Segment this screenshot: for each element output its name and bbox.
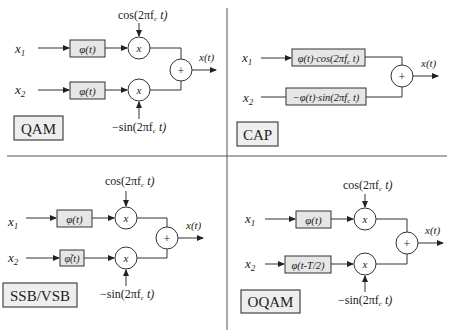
carrier-sin-label: −sin(2πfc t) <box>338 293 392 308</box>
input-x1-label: x1 <box>244 211 255 228</box>
input-x1-label: x1 <box>7 214 18 231</box>
carrier-cos-label: cos(2πfc t) <box>343 178 393 193</box>
wire-bottom-sum <box>137 249 167 258</box>
wire-top-sum <box>137 218 167 227</box>
wire-bottom-sum <box>366 87 402 97</box>
carrier-cos-label: cos(2πfc t) <box>118 8 168 23</box>
input-x2-label: x2 <box>242 90 254 107</box>
panel-title: SSB/VSB <box>10 288 70 304</box>
carrier-cos-label: cos(2πfc t) <box>105 174 155 189</box>
input-x1-label: x1 <box>241 50 252 67</box>
carrier-sin-label: −sin(2πfc t) <box>112 120 166 135</box>
wire-top-sum <box>376 219 407 232</box>
output-label: x(t) <box>198 51 215 64</box>
wire-bottom-sum <box>376 254 407 264</box>
input-x2-label: x2 <box>14 82 26 99</box>
output-label: x(t) <box>420 57 437 70</box>
multiplier-top-symbol: x <box>362 213 368 225</box>
carrier-sin-label: −sin(2πfc t) <box>100 287 154 302</box>
wire-top-sum <box>365 57 402 65</box>
filter-top-label: φ(t) <box>305 214 322 227</box>
filter-top-label: φ(t) <box>66 213 83 226</box>
multiplier-bottom-symbol: x <box>362 258 368 270</box>
filter-bottom-label: φ(t-T/2) <box>291 260 325 272</box>
filter-bottom-label: φ̃(t) <box>65 253 81 265</box>
wire-bottom-sum <box>150 81 181 90</box>
summer-symbol: + <box>178 64 185 78</box>
summer-symbol: + <box>399 70 406 84</box>
panel-title: CAP <box>243 127 272 143</box>
panel-oqam: x1 x2 φ(t) φ(t-T/2) x x cos(2πfc t) −sin… <box>241 178 443 313</box>
panel-cap: x1 x2 φ(t)·cos(2πfc t) −φ(t)·sin(2πfc t)… <box>237 49 438 146</box>
multiplier-top-symbol: x <box>136 42 142 54</box>
filter-top-label: φ(t) <box>79 43 96 56</box>
output-label: x(t) <box>424 224 441 237</box>
panel-title: OQAM <box>248 294 294 310</box>
filter-bottom-label: φ(t) <box>79 85 96 98</box>
summer-symbol: + <box>404 237 411 251</box>
multiplier-bottom-symbol: x <box>123 252 129 264</box>
input-x1-label: x1 <box>14 41 25 58</box>
panel-ssb-vsb: x1 x2 φ(t) φ̃(t) x x cos(2πfc t) −sin(2π… <box>3 174 203 307</box>
output-label: x(t) <box>185 219 202 232</box>
multiplier-bottom-symbol: x <box>136 84 142 96</box>
panel-qam: x1 x2 φ(t) φ(t) x x cos(2πfc t) −sin(2πf… <box>14 8 216 140</box>
panel-title: QAM <box>21 121 56 137</box>
input-x2-label: x2 <box>7 250 19 267</box>
wire-top-sum <box>150 48 181 59</box>
summer-symbol: + <box>164 232 171 246</box>
multiplier-top-symbol: x <box>123 212 129 224</box>
input-x2-label: x2 <box>244 256 256 273</box>
modulation-diagram: x1 x2 φ(t) φ(t) x x cos(2πfc t) −sin(2πf… <box>0 0 452 335</box>
